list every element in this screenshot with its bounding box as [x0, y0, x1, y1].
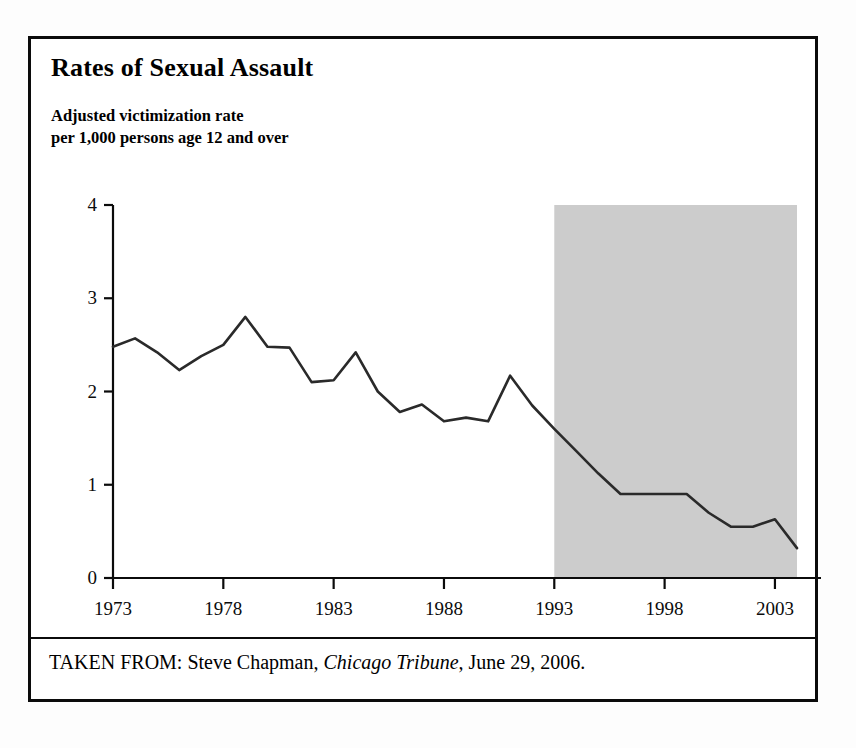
x-tick-label-1973: 1973	[94, 598, 132, 620]
caption-suffix: , June 29, 2006.	[459, 651, 586, 673]
x-tick-label-1988: 1988	[425, 598, 463, 620]
caption-prefix: TAKEN FROM: Steve Chapman,	[49, 651, 324, 673]
figure-frame: Rates of Sexual Assault Adjusted victimi…	[28, 36, 818, 702]
figure-caption: TAKEN FROM: Steve Chapman, Chicago Tribu…	[49, 651, 585, 674]
x-tick-label-1993: 1993	[535, 598, 573, 620]
y-tick-label-2: 2	[73, 381, 97, 403]
y-tick-label-1: 1	[73, 474, 97, 496]
shaded-band-rect	[554, 205, 797, 578]
y-tick-label-4: 4	[73, 194, 97, 216]
x-tick-label-2003: 2003	[756, 598, 794, 620]
x-tick-label-1983: 1983	[315, 598, 353, 620]
shaded-band-group	[554, 205, 797, 578]
y-tick-label-0: 0	[73, 567, 97, 589]
plot-area: 012341973197819831988199319982003	[31, 39, 821, 705]
page-background: Rates of Sexual Assault Adjusted victimi…	[0, 0, 856, 748]
caption-divider	[31, 637, 815, 639]
x-tick-label-1978: 1978	[204, 598, 242, 620]
x-tick-label-1998: 1998	[646, 598, 684, 620]
caption-source-title: Chicago Tribune	[324, 651, 459, 673]
y-tick-label-3: 3	[73, 287, 97, 309]
